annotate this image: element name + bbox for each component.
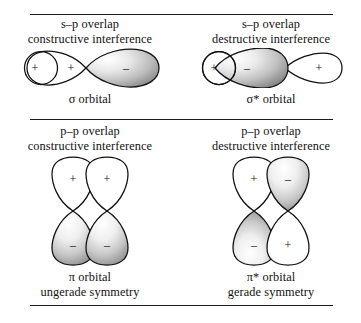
pi-star-orbital-diagram: + – – +: [228, 156, 314, 266]
divider-bottom: [30, 305, 333, 306]
sigma-star-lobe-far: [285, 53, 342, 83]
panel-sigma-star-caption-line2: destructive interference: [181, 32, 361, 47]
panel-pi-label: π orbital ungerade symmetry: [0, 270, 180, 299]
panel-pi-caption-line1: p–p overlap: [0, 124, 180, 139]
panel-sigma: s–p overlap constructive interference +: [0, 17, 180, 107]
panel-sigma-label: σ orbital: [0, 92, 180, 107]
panel-pi-label-line1: π orbital: [0, 270, 180, 285]
pi-star-sign-bottom-left: –: [250, 238, 258, 252]
panel-pi-star-label-line2: gerade symmetry: [181, 285, 361, 300]
panel-sigma-star-label: σ* orbital: [181, 92, 361, 107]
panel-sigma-caption-line2: constructive interference: [0, 32, 180, 47]
sigma-sign-s: +: [32, 61, 39, 75]
panel-pi-star-label: π* orbital gerade symmetry: [181, 270, 361, 299]
panel-pi-caption: p–p overlap constructive interference: [0, 124, 180, 153]
sigma-star-orbital-diagram: + – +: [195, 48, 347, 88]
sigma-star-sign-s: +: [211, 61, 218, 75]
sigma-orbital-diagram: + + –: [14, 48, 166, 88]
panel-sigma-star-label-line1: σ* orbital: [181, 92, 361, 107]
pi-star-sign-top-right: –: [284, 172, 292, 186]
panel-sigma-star-caption: s–p overlap destructive interference: [181, 17, 361, 46]
pi-star-sign-top-left: +: [251, 172, 258, 186]
panel-sigma-caption-line1: s–p overlap: [0, 17, 180, 32]
panel-pi: p–p overlap constructive interference: [0, 124, 180, 299]
panel-pi-star-caption: p–p overlap destructive interference: [181, 124, 361, 153]
pi-sign-top-left: +: [70, 172, 77, 186]
pi-star-sign-bottom-right: +: [285, 238, 292, 252]
orbital-overlap-figure: s–p overlap constructive interference +: [0, 0, 361, 323]
panel-pi-star-label-line1: π* orbital: [181, 270, 361, 285]
panel-sigma-star-caption-line1: s–p overlap: [181, 17, 361, 32]
panel-pi-caption-line2: constructive interference: [0, 139, 180, 154]
panel-pi-label-line2: ungerade symmetry: [0, 285, 180, 300]
panel-sigma-caption: s–p overlap constructive interference: [0, 17, 180, 46]
divider-top: [30, 14, 333, 15]
panel-pi-star: p–p overlap destructive interference: [181, 124, 361, 299]
panel-pi-star-caption-line2: destructive interference: [181, 139, 361, 154]
sigma-sign-near: +: [68, 61, 75, 75]
pi-orbital-diagram: + + – –: [47, 156, 133, 266]
pi-sign-top-right: +: [104, 172, 111, 186]
pi-sign-bottom-right: –: [103, 238, 111, 252]
panel-sigma-star: s–p overlap destructive interference: [181, 17, 361, 107]
sigma-star-sign-near: –: [243, 61, 251, 75]
panel-sigma-label-line1: σ orbital: [0, 92, 180, 107]
sigma-star-sign-far: +: [316, 61, 323, 75]
panel-pi-star-caption-line1: p–p overlap: [181, 124, 361, 139]
sigma-sign-far: –: [122, 61, 130, 75]
divider-middle: [30, 119, 333, 120]
pi-sign-bottom-left: –: [69, 238, 77, 252]
